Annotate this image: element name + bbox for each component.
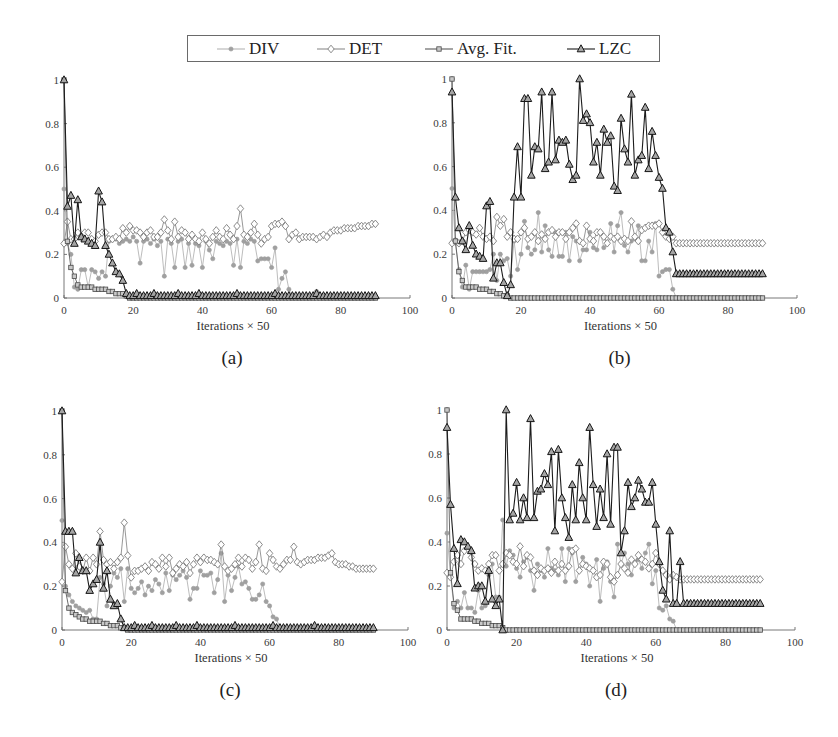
lzc-data-point	[676, 558, 684, 565]
lzc-data-point	[105, 250, 113, 257]
div-data-point	[83, 268, 87, 272]
div-data-point	[174, 578, 178, 582]
div-data-point	[221, 244, 225, 248]
det-data-point	[218, 541, 224, 549]
lzc-data-point	[516, 516, 524, 523]
x-tick-label: 40	[195, 636, 207, 648]
div-data-point	[167, 588, 171, 592]
lzc-data-point	[600, 125, 608, 132]
div-data-point	[131, 235, 135, 239]
div-data-point	[469, 606, 473, 610]
div-data-point	[135, 239, 139, 243]
lzc-data-point	[462, 246, 470, 253]
legend-label: DET	[349, 36, 382, 61]
div-data-point	[60, 518, 64, 522]
lzc-data-point	[541, 470, 549, 477]
avg-fit-data-point	[453, 239, 457, 243]
y-tick-label: 1	[54, 74, 60, 86]
div-data-point	[115, 575, 119, 579]
series-lzc	[60, 76, 379, 299]
div-data-point	[245, 241, 249, 245]
lzc-data-point	[586, 119, 594, 126]
panel-caption: (a)	[221, 347, 242, 369]
div-data-point	[498, 252, 502, 256]
panel-caption: (d)	[605, 679, 627, 701]
x-axis-label: Iterations × 50	[196, 319, 269, 333]
div-data-point	[664, 604, 668, 608]
square-marker-icon	[424, 41, 454, 57]
div-data-point	[612, 595, 616, 599]
div-data-point	[636, 224, 640, 228]
div-data-point	[223, 599, 227, 603]
det-data-point	[576, 567, 582, 575]
x-tick-label: 0	[59, 636, 65, 648]
lzc-data-point	[655, 558, 663, 565]
div-data-point	[162, 274, 166, 278]
axes: 00.20.40.60.81020406080100	[43, 405, 417, 648]
y-tick-label: 0.6	[43, 493, 57, 505]
lzc-data-point	[450, 544, 458, 551]
lzc-data-point	[443, 423, 451, 430]
lzc-data-point	[527, 415, 535, 422]
div-data-point	[183, 265, 187, 269]
x-tick-label: 60	[654, 304, 666, 316]
div-data-point	[280, 276, 284, 280]
legend: DIV DET Avg. Fit. LZC	[187, 35, 660, 62]
det-data-point	[517, 543, 523, 551]
div-data-point	[595, 248, 599, 252]
lzc-data-point	[109, 259, 117, 266]
x-tick-label: 80	[723, 304, 735, 316]
x-tick-label: 60	[650, 636, 662, 648]
div-data-point	[647, 542, 651, 546]
lzc-data-point	[107, 595, 115, 602]
div-data-point	[216, 578, 220, 582]
det-data-point	[83, 554, 89, 562]
lzc-data-point	[603, 138, 611, 145]
x-tick-label: 100	[400, 636, 417, 648]
lzc-data-point	[502, 406, 510, 413]
div-data-point	[532, 588, 536, 592]
lzc-data-point	[635, 476, 643, 483]
lzc-data-point	[455, 224, 463, 231]
div-data-point	[643, 551, 647, 555]
det-data-point	[628, 218, 634, 226]
div-data-point	[138, 261, 142, 265]
div-data-point	[273, 246, 277, 250]
div-data-point	[526, 246, 530, 250]
div-data-point	[612, 250, 616, 254]
legend-item-avg-fit: Avg. Fit.	[424, 36, 517, 61]
div-data-point	[650, 250, 654, 254]
div-data-point	[274, 617, 278, 621]
div-data-point	[671, 619, 675, 623]
div-data-point	[588, 584, 592, 588]
div-data-point	[567, 259, 571, 263]
div-data-point	[563, 580, 567, 584]
lzc-data-point	[666, 527, 674, 534]
y-tick-label: 0.8	[43, 449, 57, 461]
det-data-point	[239, 563, 245, 571]
div-data-point	[647, 239, 651, 243]
div-data-point	[243, 580, 247, 584]
div-data-point	[581, 555, 585, 559]
y-tick-label: 0.4	[433, 204, 447, 216]
div-data-point	[560, 547, 564, 551]
det-data-point	[168, 235, 174, 243]
div-data-point	[160, 591, 164, 595]
div-data-point	[198, 569, 202, 573]
det-data-point	[111, 565, 117, 573]
lzc-data-point	[558, 494, 566, 501]
chart-panel-a: 00.20.40.60.81020406080100Iterations × 5…	[45, 74, 419, 369]
div-data-point	[148, 241, 152, 245]
lzc-data-point	[655, 173, 663, 180]
div-data-point	[207, 248, 211, 252]
div-data-point	[97, 276, 101, 280]
div-data-point	[146, 584, 150, 588]
x-tick-label: 100	[787, 636, 804, 648]
lzc-data-point	[523, 514, 531, 521]
legend-item-lzc: LZC	[566, 36, 631, 61]
div-data-point	[571, 235, 575, 239]
div-data-point	[164, 571, 168, 575]
lzc-data-point	[645, 165, 653, 172]
lzc-data-point	[538, 88, 546, 95]
x-tick-label: 40	[197, 304, 209, 316]
